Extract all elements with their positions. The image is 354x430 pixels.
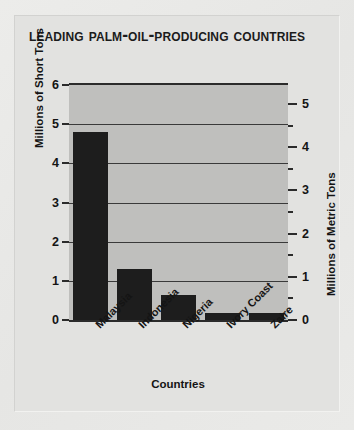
y-axis-left-tick bbox=[62, 241, 69, 243]
bar bbox=[73, 132, 108, 320]
y-axis-right-tick bbox=[288, 233, 297, 235]
y-axis-left-tick bbox=[62, 202, 69, 204]
bar-series bbox=[69, 85, 288, 320]
y-axis-left-title: Millions of Short Tons bbox=[33, 28, 45, 148]
figure: Leading Palm-Oil-Producing Countries Mil… bbox=[0, 0, 354, 430]
y-axis-right-tick bbox=[288, 189, 297, 191]
y-axis-right-tick-label: 5 bbox=[302, 97, 309, 111]
chart-title: Leading Palm-Oil-Producing Countries bbox=[29, 25, 319, 46]
y-axis-left-tick bbox=[62, 123, 69, 125]
y-axis-right-minor-tick bbox=[288, 254, 293, 256]
y-axis-right-minor-tick bbox=[288, 297, 293, 299]
y-axis-left-tick bbox=[62, 280, 69, 282]
y-axis-right-minor-tick bbox=[288, 168, 293, 170]
y-axis-left-tick bbox=[62, 84, 69, 86]
y-axis-right-tick bbox=[288, 276, 297, 278]
y-axis-right-title: Millions of Metric Tons bbox=[325, 172, 337, 296]
y-axis-left-tick-label: 2 bbox=[52, 235, 59, 249]
x-axis-title: Countries bbox=[15, 378, 341, 390]
y-axis-left-tick-label: 4 bbox=[52, 156, 59, 170]
y-axis-right-minor-tick bbox=[288, 125, 293, 127]
y-axis-right-minor-tick bbox=[288, 211, 293, 213]
y-axis-left-tick-label: 3 bbox=[52, 196, 59, 210]
y-axis-left-tick bbox=[62, 319, 69, 321]
chart-panel: Leading Palm-Oil-Producing Countries Mil… bbox=[14, 15, 340, 412]
y-axis-left-tick-label: 1 bbox=[52, 274, 59, 288]
y-axis-right-tick-label: 0 bbox=[302, 313, 309, 327]
y-axis-right-tick-label: 2 bbox=[302, 227, 309, 241]
y-axis-right-tick bbox=[288, 319, 297, 321]
y-axis-left-tick-label: 6 bbox=[52, 78, 59, 92]
y-axis-left-tick-label: 5 bbox=[52, 117, 59, 131]
y-axis-right-tick-label: 3 bbox=[302, 183, 309, 197]
y-axis-left-tick-label: 0 bbox=[52, 313, 59, 327]
y-axis-right-tick bbox=[288, 146, 297, 148]
y-axis-left-tick bbox=[62, 162, 69, 164]
plot-area: 0123456 012345 bbox=[69, 83, 288, 322]
y-axis-right-tick bbox=[288, 103, 297, 105]
y-axis-right-tick-label: 1 bbox=[302, 270, 309, 284]
y-axis-right-tick-label: 4 bbox=[302, 140, 309, 154]
